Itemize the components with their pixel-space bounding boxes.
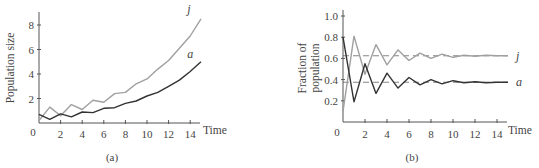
x-tick-label: 4: [79, 128, 85, 140]
series-j-line: [343, 36, 508, 111]
x-tick-label: 12: [163, 128, 174, 140]
x-tick-label: 6: [406, 128, 412, 140]
x-tick-label: 6: [101, 128, 107, 140]
panel-caption: (a): [106, 151, 119, 164]
y-tick-label: 0.6: [324, 52, 338, 64]
x-tick-label: 2: [362, 128, 368, 140]
origin-label: 0: [30, 126, 36, 138]
x-tick-label: 4: [384, 128, 390, 140]
series-a-label: a: [516, 75, 522, 89]
x-tick-label: 10: [448, 128, 460, 140]
series-a-line: [39, 62, 201, 120]
x-tick-label: 8: [123, 128, 129, 140]
x-axis-label: Time: [508, 124, 532, 136]
y-axis-label: Fraction ofpopulation: [296, 42, 322, 93]
chart-a-lines: [39, 19, 201, 121]
chart-b: 246810121400.20.40.60.81.0 TimeFraction …: [296, 10, 532, 164]
y-tick-label: 0.2: [324, 95, 338, 107]
y-tick-label: 0.8: [324, 31, 338, 43]
chart-a-axes: 246810121402468: [29, 12, 201, 140]
series-a-line: [343, 37, 508, 102]
y-tick-label: 6: [29, 44, 35, 56]
chart-a: 246810121402468 TimePopulation size(a)ja: [4, 2, 227, 164]
series-a-label: a: [187, 47, 193, 61]
origin-label: 0: [334, 126, 340, 138]
x-tick-label: 12: [470, 128, 481, 140]
x-tick-label: 8: [428, 128, 434, 140]
x-axis-label: Time: [203, 124, 227, 136]
x-tick-label: 14: [492, 128, 504, 140]
y-tick-label: 4: [29, 68, 35, 80]
series-j-label: j: [185, 2, 191, 16]
chart-b-reference-lines: [343, 56, 508, 83]
x-tick-label: 14: [185, 128, 197, 140]
x-tick-label: 10: [142, 128, 154, 140]
y-tick-label: 2: [29, 93, 35, 105]
y-tick-label: 8: [29, 19, 35, 31]
panel-caption: (b): [406, 151, 419, 164]
y-axis-label: Population size: [4, 33, 17, 104]
y-tick-label: 1.0: [324, 10, 338, 22]
chart-b-axes: 246810121400.20.40.60.81.0: [324, 10, 507, 140]
x-tick-label: 2: [58, 128, 64, 140]
y-tick-label: 0.4: [324, 74, 338, 86]
series-j-label: j: [514, 49, 520, 63]
figure: 246810121402468 TimePopulation size(a)ja…: [0, 0, 539, 168]
chart-b-lines: [343, 36, 508, 111]
